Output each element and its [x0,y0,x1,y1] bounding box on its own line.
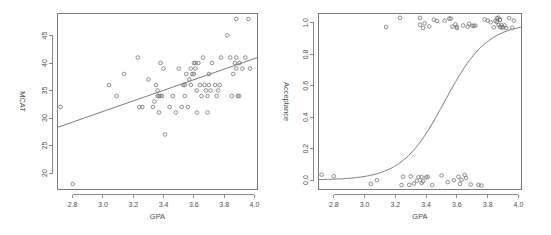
x-axis-title-left: GPA [150,212,165,221]
panel-acceptance-vs-gpa: 2.83.03.23.43.63.84.0 0.00.20.40.60.81.0… [276,0,551,235]
data-point [398,16,402,20]
data-point [443,19,447,23]
data-point [461,24,465,28]
data-point [213,83,217,87]
y-tick-label: 0.4 [302,112,309,122]
y-tick-label: 0.2 [302,144,309,154]
data-point [469,183,473,187]
panel-mcat-vs-gpa: 2.83.03.23.43.63.84.0 202530354045 GPA M… [0,0,275,235]
data-point [122,72,126,76]
data-point [230,94,234,98]
y-axis-ticks-left: 202530354045 [41,32,52,177]
data-point [421,26,425,30]
data-point [201,56,205,60]
data-point [180,105,184,109]
data-point [409,175,413,179]
x-tick-label: 3.0 [98,201,108,208]
data-point [159,61,163,65]
x-tick-label: 2.8 [329,201,339,208]
y-tick-label: 0.6 [302,81,309,91]
data-point [219,56,223,60]
data-point [171,94,175,98]
data-point [151,105,155,109]
data-point [234,56,238,60]
x-tick-label: 4.0 [514,201,524,208]
x-tick-label: 4.0 [250,201,260,208]
data-point [136,56,140,60]
data-point [418,23,422,27]
data-points-left [59,17,252,186]
data-point [435,19,439,23]
y-tick-label: 40 [41,59,48,67]
x-axis-ticks-right: 2.83.03.23.43.63.84.0 [329,195,523,208]
data-point [234,67,238,71]
data-point [241,67,245,71]
y-tick-label: 1.0 [302,18,309,28]
x-tick-label: 3.2 [128,201,138,208]
data-point [247,17,251,21]
data-point [184,72,188,76]
mcat-scatter-plot: 2.83.03.23.43.63.84.0 202530354045 GPA M… [0,0,275,235]
y-tick-label: 45 [41,32,48,40]
data-point [244,56,248,60]
x-tick-label: 2.8 [68,201,78,208]
data-point [194,67,198,71]
data-point [412,182,416,186]
data-point [369,182,373,186]
data-point [507,16,511,20]
data-point [209,89,213,93]
acceptance-logistic-plot: 2.83.03.23.43.63.84.0 0.00.20.40.60.81.0… [276,0,551,235]
data-point [189,83,193,87]
plot-frame-left [58,14,258,190]
x-axis-title-right: GPA [412,212,427,221]
y-tick-label: 20 [41,169,48,177]
x-tick-label: 3.2 [391,201,401,208]
data-point [446,180,450,184]
data-point [207,83,211,87]
data-point [154,83,158,87]
data-point [115,94,119,98]
y-axis-title-right: Acceptance [282,82,291,121]
plot-frame-right [319,14,522,190]
data-point [489,21,493,25]
x-tick-label: 3.8 [483,201,493,208]
data-point [460,178,464,182]
data-point [233,61,237,65]
data-point [423,22,427,26]
data-point [407,183,411,187]
regression-line [58,58,258,128]
linear-fit-line [58,58,258,128]
x-tick-label: 3.0 [360,201,370,208]
data-point [431,183,435,187]
data-point [418,16,422,20]
data-point [195,89,199,93]
x-tick-label: 3.6 [452,201,462,208]
logistic-fit-curve [319,27,522,180]
y-tick-label: 35 [41,87,48,95]
data-point [186,105,190,109]
data-point [153,100,157,104]
data-point [203,83,207,87]
x-tick-label: 3.8 [219,201,229,208]
data-point [440,174,444,178]
data-points-right [320,16,516,187]
data-point [107,83,111,87]
data-point [200,94,204,98]
data-point [147,78,151,82]
logistic-curve [319,27,522,180]
data-point [375,178,379,182]
data-point [228,56,232,60]
data-point [512,19,516,23]
data-point [195,111,199,115]
data-point [168,105,172,109]
data-point [401,175,405,179]
y-tick-label: 0.8 [302,49,309,59]
data-point [157,111,161,115]
data-point [59,105,63,109]
y-axis-ticks-right: 0.00.20.40.60.81.0 [302,18,313,185]
data-point [210,61,214,65]
y-axis-title-left: MCAT [18,91,27,112]
data-point [218,83,222,87]
data-point [332,174,336,178]
data-point [457,175,461,179]
